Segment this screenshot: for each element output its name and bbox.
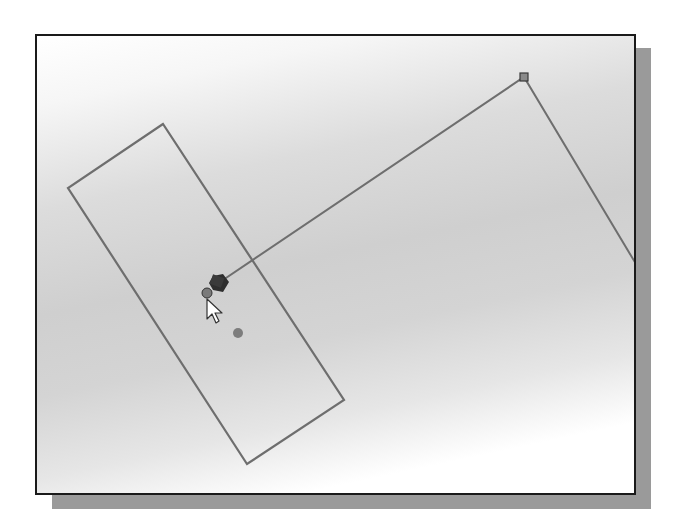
sketch-polyline[interactable] <box>220 77 634 282</box>
circle-snap-icon[interactable] <box>202 288 212 298</box>
diamond-constraint-icon <box>209 274 229 292</box>
center-point[interactable] <box>233 328 243 338</box>
sketch-canvas[interactable] <box>37 36 634 493</box>
square-endpoint-icon[interactable] <box>520 73 528 81</box>
arrow-cursor-icon <box>207 299 222 323</box>
sketch-viewport[interactable] <box>35 34 636 495</box>
